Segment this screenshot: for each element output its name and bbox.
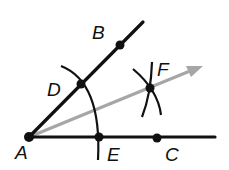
label-E: E — [107, 145, 120, 164]
point-F — [146, 84, 155, 93]
point-B — [116, 41, 125, 50]
label-C: C — [165, 145, 179, 164]
label-B: B — [92, 23, 105, 42]
label-D: D — [47, 80, 61, 99]
bisector-ray-AF — [29, 66, 203, 137]
point-C — [153, 134, 162, 143]
diagram-canvas: A B C D E F — [0, 0, 229, 170]
point-E — [95, 133, 104, 142]
label-F: F — [157, 60, 169, 79]
label-A: A — [15, 143, 28, 162]
point-D — [77, 80, 86, 89]
arrowhead-icon — [186, 66, 203, 77]
point-A — [24, 132, 34, 142]
